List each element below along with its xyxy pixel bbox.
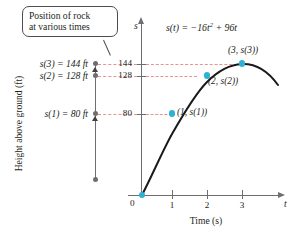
y-tick-label-128: 128 xyxy=(104,70,132,80)
x-tick-label-2: 2 xyxy=(200,200,214,210)
point-label-t1: (1, s(1)) xyxy=(177,107,207,117)
point-label-t2: (2, s(2)) xyxy=(208,76,238,86)
equation-lhs: s(t) xyxy=(166,22,179,33)
rock-arrow-up-a xyxy=(92,67,98,72)
x-axis-title: Time (s) xyxy=(163,215,249,226)
point-label-t3: (3, s(3)) xyxy=(228,45,258,55)
x-tick-label-1: 1 xyxy=(165,200,179,210)
callout-box: Position of rock at various times xyxy=(22,6,118,37)
equation-label: s(t) = −16t2 + 96t xyxy=(166,21,237,33)
rock-position-figure: Position of rock at various times Height… xyxy=(0,0,298,238)
callout-line-2: at various times xyxy=(29,21,112,32)
y-axis-line xyxy=(141,24,142,196)
equation-rest: + 96t xyxy=(215,22,237,33)
y-axis-arrowhead xyxy=(138,17,144,24)
value-label-s1: s(1) = 80 ft xyxy=(10,108,88,119)
x-tick-3 xyxy=(242,190,243,199)
y-tick-label-80: 80 xyxy=(104,108,132,118)
x-axis-line xyxy=(128,195,280,196)
y-tick-144 xyxy=(137,64,146,65)
equation-exponent: 2 xyxy=(210,21,213,28)
y-tick-label-144: 144 xyxy=(104,58,132,68)
rock-arrow-up-b xyxy=(92,116,98,121)
callout-line-1: Position of rock xyxy=(29,10,112,21)
rock-dot-ground xyxy=(93,177,98,182)
y-tick-128 xyxy=(137,76,146,77)
x-tick-1 xyxy=(172,190,173,199)
x-tick-2 xyxy=(207,190,208,199)
rock-position-line xyxy=(95,62,96,181)
equation-coef: −16t xyxy=(191,22,210,33)
equation-eq: = xyxy=(182,22,189,33)
dash-connector-128-right xyxy=(146,76,197,77)
dash-connector-144-right xyxy=(146,64,242,65)
origin-label: 0 xyxy=(130,198,135,208)
x-axis-name: t xyxy=(284,198,287,209)
point-origin xyxy=(139,192,145,198)
point-t3 xyxy=(239,60,245,66)
point-t1 xyxy=(169,110,175,116)
y-axis-name: s xyxy=(134,20,138,31)
value-label-s2: s(2) = 128 ft xyxy=(10,70,88,81)
y-tick-80 xyxy=(137,114,146,115)
value-label-s3: s(3) = 144 ft xyxy=(10,58,88,69)
x-tick-label-3: 3 xyxy=(235,200,249,210)
callout-pointer xyxy=(103,40,111,56)
